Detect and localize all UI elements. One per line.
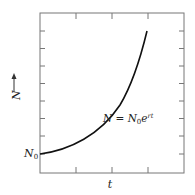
y-axis-label: N (10, 90, 23, 101)
y-ticks-left (40, 31, 45, 154)
x-ticks-bottom (76, 167, 148, 173)
x-ticks-top (76, 13, 148, 19)
y-axis-label-group: N (10, 90, 23, 101)
equation-annotation: N = N0ert (102, 112, 154, 126)
x-axis-label: t (108, 178, 113, 191)
exponential-growth-chart: N = NN0 N = N0ert N t (0, 0, 195, 195)
n0-label: N = NN0 (23, 147, 38, 161)
y-ticks-right (179, 31, 184, 154)
exponential-curve (40, 31, 147, 154)
arrow-up-icon (12, 73, 17, 79)
